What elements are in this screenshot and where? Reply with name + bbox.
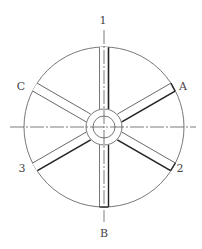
- spoke-a: [117, 83, 175, 122]
- spoke-3: [32, 132, 90, 171]
- label-upper-left: C: [17, 81, 25, 92]
- label-top: 1: [100, 15, 107, 26]
- spoke-c: [32, 83, 90, 122]
- wheel-diagram: [0, 0, 202, 249]
- label-lower-left: 3: [19, 163, 26, 174]
- label-bottom: B: [100, 228, 108, 239]
- label-upper-right: A: [179, 81, 187, 92]
- label-lower-right: 2: [177, 163, 184, 174]
- spoke-2: [117, 132, 175, 171]
